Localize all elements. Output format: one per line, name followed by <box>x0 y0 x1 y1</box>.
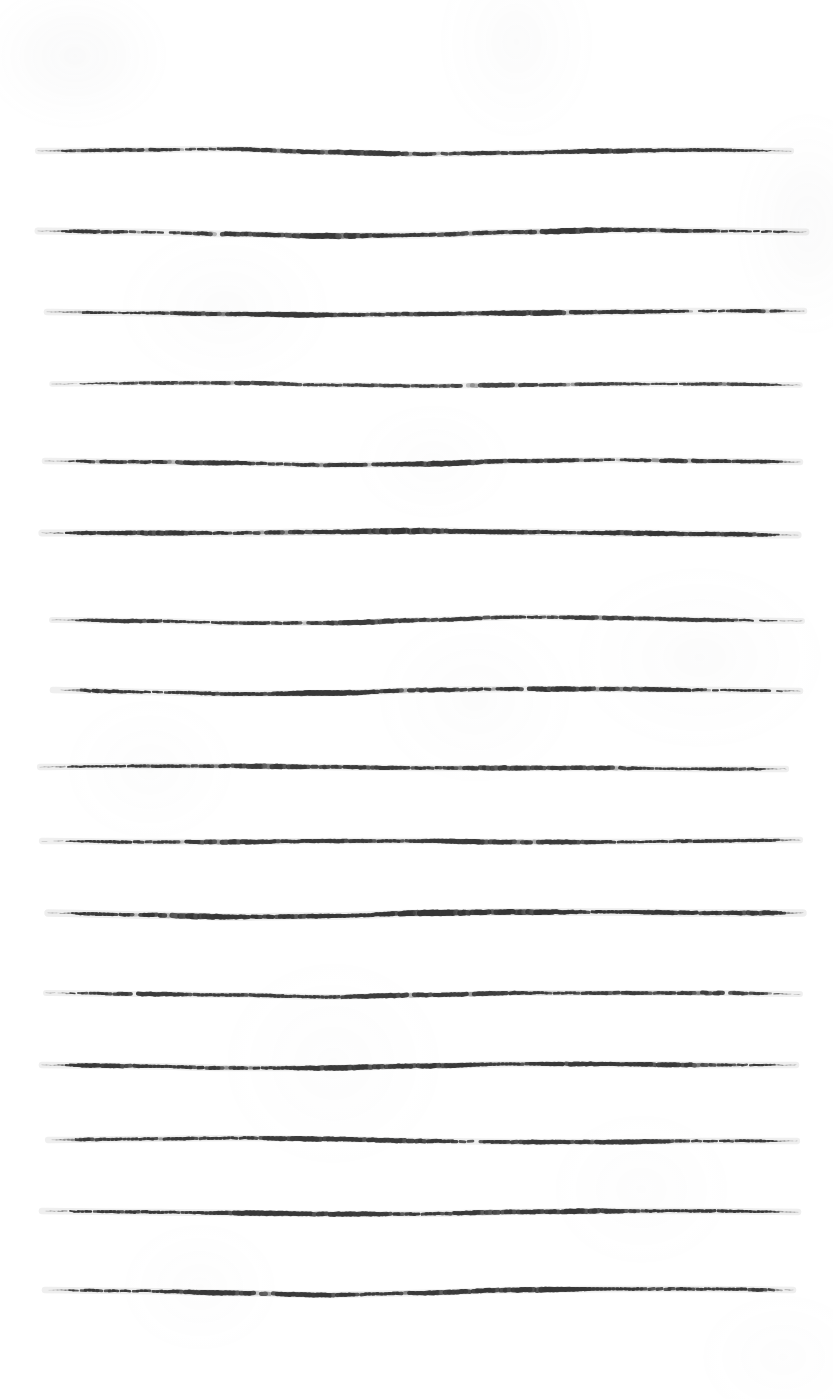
ruled-line-8 <box>53 689 800 695</box>
ruled-line-12 <box>46 993 800 998</box>
ruled-line-13 <box>42 1064 796 1069</box>
ruled-line-15 <box>42 1211 798 1215</box>
ruled-line-10 <box>42 840 800 843</box>
scanned-page <box>0 0 833 1399</box>
ruled-line-11 <box>48 912 803 918</box>
ruled-lines-group <box>0 0 833 1399</box>
ruled-lines-canvas <box>0 0 833 1399</box>
ruled-line-5 <box>45 460 800 466</box>
ruled-line-4 <box>52 383 800 387</box>
ruled-line-3 <box>47 311 804 316</box>
ruled-line-14 <box>48 1138 797 1143</box>
ruled-line-1 <box>38 149 791 155</box>
ruled-line-16 <box>45 1289 793 1296</box>
ruled-line-6 <box>42 531 798 536</box>
ruled-line-7 <box>52 617 802 624</box>
ruled-line-2 <box>38 230 806 237</box>
ruled-line-9 <box>40 766 786 770</box>
